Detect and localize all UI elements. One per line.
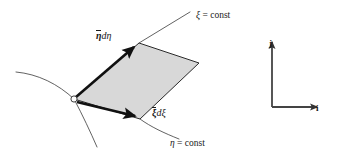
- figure-container: ξ = const η = const ηdη ξdξ j i: [0, 0, 337, 160]
- eta-vector-differential: dη: [102, 30, 112, 41]
- xi-const-label: ξ = const: [196, 11, 230, 21]
- xi-const-equals: = const: [200, 10, 230, 20]
- eta-const-label: η = const: [170, 139, 205, 149]
- axis-i-label: i: [316, 104, 319, 113]
- eta-const-equals: = const: [175, 138, 205, 148]
- xi-vector-base: ξ: [152, 108, 157, 118]
- origin-point-marker: [71, 96, 77, 102]
- diagram-canvas: [0, 0, 337, 160]
- axis-j-label: j: [269, 39, 272, 48]
- eta-vector-label: ηdη: [96, 31, 111, 41]
- eta-vector-base: η: [96, 31, 102, 41]
- xi-vector-label: ξdξ: [152, 108, 166, 118]
- xi-vector-differential: dξ: [157, 107, 166, 118]
